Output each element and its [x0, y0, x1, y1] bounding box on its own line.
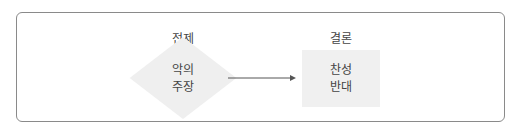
- conclusion-text: 찬성 반대: [301, 62, 381, 96]
- conclusion-heading: 결론: [301, 29, 381, 46]
- diagram-frame: [16, 12, 505, 122]
- arrow-connector: [228, 72, 298, 84]
- conclusion-line-2: 반대: [301, 79, 381, 96]
- premise-line-1: 악의: [143, 62, 223, 79]
- conclusion-line-1: 찬성: [301, 62, 381, 79]
- premise-text: 악의 주장: [143, 62, 223, 96]
- premise-line-2: 주장: [143, 79, 223, 96]
